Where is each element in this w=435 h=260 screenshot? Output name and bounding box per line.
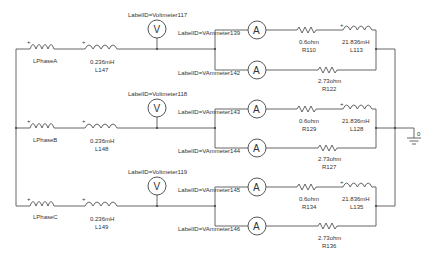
inductor-icon — [343, 26, 372, 30]
resistor-icon — [297, 184, 316, 190]
svg-text:+: + — [82, 39, 86, 45]
inductor-value: 0.236mH — [90, 59, 114, 65]
svg-text:+: + — [340, 101, 344, 107]
svg-text:V: V — [154, 103, 161, 114]
inductor-name: L113 — [350, 47, 364, 53]
svg-text:A: A — [253, 104, 260, 115]
svg-text:A: A — [253, 65, 260, 76]
resistor-value: 0.6ohm — [299, 39, 319, 45]
source-label: LPhaseB — [33, 137, 57, 143]
svg-text:+: + — [340, 179, 344, 185]
svg-text:A: A — [253, 182, 260, 193]
ammeter-label: LabelID=VAmmeter139 — [178, 30, 241, 36]
inductor-value: 21.836mH — [342, 196, 370, 202]
inductor-name: L147 — [95, 67, 109, 73]
ground-label: 0 — [417, 131, 421, 137]
source-inductor-icon — [30, 202, 60, 207]
svg-text:V: V — [154, 181, 161, 192]
ammeter-label: LabelID=VAmmeter144 — [178, 148, 241, 154]
resistor-icon — [318, 145, 337, 151]
source-label: LPhaseC — [33, 214, 58, 220]
svg-text:+: + — [340, 22, 344, 28]
inductor-icon — [343, 105, 372, 109]
resistor-value: 0.6ohm — [299, 118, 319, 124]
resistor-icon — [297, 27, 316, 33]
resistor-value: 0.6ohm — [299, 196, 319, 202]
resistor-name: R122 — [322, 86, 337, 92]
resistor-name: R136 — [322, 243, 337, 249]
resistor-value: 2.73ohm — [318, 235, 341, 241]
resistor-icon — [318, 67, 337, 73]
inductor-value: 0.236mH — [90, 138, 114, 144]
voltmeter-label: LabelID=Voltmeter119 — [128, 169, 188, 175]
svg-text:A: A — [253, 25, 260, 36]
resistor-name: R110 — [302, 47, 317, 53]
ammeter-label: LabelID=VAmmeter142 — [178, 70, 241, 76]
resistor-value: 2.73ohm — [318, 78, 341, 84]
inductor-name: L149 — [95, 224, 109, 230]
resistor-icon — [297, 106, 316, 112]
inductor-icon — [85, 202, 117, 206]
svg-text:+: + — [82, 196, 86, 202]
junction-dot — [394, 127, 396, 129]
inductor-value: 0.236mH — [90, 216, 114, 222]
ammeter-label: LabelID=VAmmeter146 — [178, 226, 241, 232]
svg-text:+: + — [27, 118, 31, 124]
inductor-name: L148 — [95, 146, 109, 152]
svg-text:V: V — [154, 24, 161, 35]
ammeter-label: LabelID=VAmmeter145 — [178, 187, 241, 193]
inductor-icon — [85, 124, 117, 128]
svg-text:+: + — [27, 196, 31, 202]
resistor-icon — [318, 223, 337, 229]
phase-b: + LPhaseB + 0.236mH L148 V LabelID=Voltm… — [15, 91, 377, 170]
inductor-name: L135 — [350, 204, 364, 210]
svg-text:+: + — [27, 39, 31, 45]
voltmeter-label: LabelID=Voltmeter118 — [128, 91, 188, 97]
inductor-value: 21.836mH — [342, 39, 370, 45]
resistor-name: R127 — [322, 164, 337, 170]
inductor-name: L128 — [350, 126, 364, 132]
svg-text:A: A — [253, 143, 260, 154]
ammeter-label: LabelID=VAmmeter143 — [178, 109, 241, 115]
source-label: LPhaseA — [33, 58, 57, 64]
source-inductor-icon — [30, 45, 60, 50]
phase-a: + LPhaseA + 0.236mH L147 V LabelID=Voltm… — [16, 12, 395, 92]
svg-text:A: A — [253, 221, 260, 232]
resistor-name: R129 — [302, 126, 317, 132]
inductor-value: 21.836mH — [342, 118, 370, 124]
circuit-schematic: 0 + LPhaseA + 0.236mH L147 V LabelID=Vol… — [0, 0, 435, 260]
resistor-value: 2.73ohm — [318, 156, 341, 162]
source-inductor-icon — [30, 124, 60, 129]
voltmeter-label: LabelID=Voltmeter117 — [128, 12, 188, 18]
resistor-name: R134 — [302, 204, 317, 210]
svg-text:+: + — [82, 118, 86, 124]
phase-c: + LPhaseC + 0.236mH L149 V LabelID=Voltm… — [16, 169, 395, 249]
inductor-icon — [343, 183, 372, 187]
inductor-icon — [85, 45, 117, 49]
